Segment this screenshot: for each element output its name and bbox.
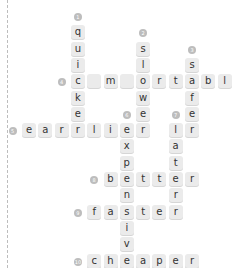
clue-number-badge: 4 — [58, 78, 66, 86]
crossword-cell[interactable]: e — [71, 107, 85, 121]
crossword-cell[interactable]: e — [169, 254, 183, 268]
crossword-cell[interactable] — [87, 74, 101, 88]
crossword-cell[interactable]: t — [136, 205, 150, 219]
crossword-cell[interactable]: r — [169, 205, 183, 219]
crossword-cell[interactable]: h — [104, 254, 118, 268]
crossword-cell[interactable]: b — [201, 74, 215, 88]
crossword-cell[interactable]: u — [71, 42, 85, 56]
crossword-cell[interactable]: r — [185, 123, 199, 137]
crossword-cell[interactable]: e — [185, 107, 199, 121]
crossword-cell[interactable]: e — [22, 123, 36, 137]
clue-number-badge: 5 — [9, 127, 17, 135]
crossword-cell[interactable]: s — [185, 58, 199, 72]
crossword-cell[interactable]: q — [71, 25, 85, 39]
crossword-cell[interactable]: r — [55, 123, 69, 137]
crossword-cell[interactable]: e — [120, 172, 134, 186]
crossword-cell[interactable]: c — [71, 74, 85, 88]
crossword-cell[interactable]: p — [120, 156, 134, 170]
clue-number-badge: 2 — [139, 29, 147, 37]
clue-number-badge: 8 — [90, 176, 98, 184]
clue-number-badge: 9 — [74, 209, 82, 217]
crossword-cell[interactable]: r — [185, 254, 199, 268]
crossword-cell[interactable]: l — [136, 58, 150, 72]
crossword-cell[interactable] — [120, 74, 134, 88]
crossword-cell[interactable]: v — [120, 237, 134, 251]
crossword-cell[interactable]: r — [136, 123, 150, 137]
crossword-cell[interactable]: e — [169, 172, 183, 186]
crossword-cell[interactable]: e — [120, 254, 134, 268]
crossword-cell[interactable]: c — [87, 254, 101, 268]
crossword-cell[interactable]: l — [87, 123, 101, 137]
crossword-cell[interactable]: t — [136, 172, 150, 186]
crossword-cell[interactable]: i — [104, 123, 118, 137]
clue-number-badge: 6 — [123, 111, 131, 119]
crossword-cell[interactable]: x — [120, 139, 134, 153]
crossword-cell[interactable]: t — [169, 156, 183, 170]
crossword-cell[interactable]: r — [152, 74, 166, 88]
crossword-cell[interactable]: a — [169, 139, 183, 153]
crossword-cell[interactable]: m — [104, 74, 118, 88]
crossword-cell[interactable]: i — [71, 58, 85, 72]
crossword-cell[interactable]: o — [136, 74, 150, 88]
clue-number-badge: 10 — [74, 258, 82, 266]
crossword-board: quickerslowersafermrtbleearliexpensivela… — [0, 0, 232, 268]
crossword-cell[interactable]: s — [136, 42, 150, 56]
crossword-cell[interactable]: a — [104, 205, 118, 219]
crossword-cell[interactable]: e — [120, 123, 134, 137]
crossword-cell[interactable]: e — [152, 205, 166, 219]
crossword-cell[interactable]: b — [104, 172, 118, 186]
crossword-cell[interactable]: l — [218, 74, 232, 88]
crossword-cell[interactable]: t — [152, 172, 166, 186]
crossword-cell[interactable]: t — [169, 74, 183, 88]
crossword-cell[interactable]: a — [38, 123, 52, 137]
clue-number-badge: 1 — [74, 13, 82, 21]
crossword-cell[interactable]: n — [120, 188, 134, 202]
crossword-cell[interactable]: r — [71, 123, 85, 137]
crossword-cell[interactable]: p — [152, 254, 166, 268]
crossword-cell[interactable]: a — [136, 254, 150, 268]
clue-number-badge: 7 — [172, 111, 180, 119]
crossword-cell[interactable]: l — [169, 123, 183, 137]
crossword-cell[interactable]: r — [169, 188, 183, 202]
crossword-cell[interactable]: i — [120, 221, 134, 235]
crossword-cell[interactable]: k — [71, 91, 85, 105]
crossword-cell[interactable]: w — [136, 91, 150, 105]
crossword-cell[interactable]: s — [120, 205, 134, 219]
crossword-cell[interactable]: e — [136, 107, 150, 121]
crossword-cell[interactable]: r — [185, 172, 199, 186]
crossword-cell[interactable]: f — [87, 205, 101, 219]
crossword-cell[interactable]: f — [185, 91, 199, 105]
crossword-cell[interactable]: a — [185, 74, 199, 88]
clue-number-badge: 3 — [188, 46, 196, 54]
